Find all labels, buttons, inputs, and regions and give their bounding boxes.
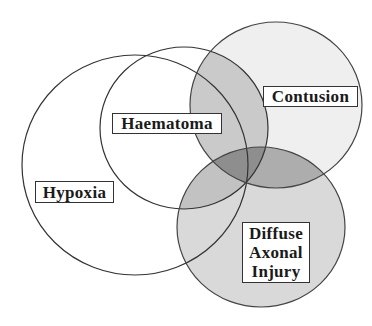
label-dai-line-1: Diffuse — [249, 224, 303, 243]
label-hypoxia: Hypoxia — [35, 181, 114, 203]
label-dai-line-2: Axonal — [249, 243, 303, 262]
label-haematoma: Haematoma — [112, 113, 222, 134]
label-contusion: Contusion — [263, 86, 358, 107]
venn-diagram — [0, 0, 372, 326]
label-dai-line-3: Injury — [251, 262, 300, 281]
label-diffuse-axonal-injury: Diffuse Axonal Injury — [242, 222, 310, 283]
